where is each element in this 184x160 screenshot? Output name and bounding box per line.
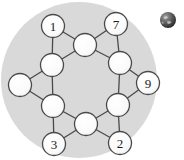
node-circle (107, 94, 130, 117)
node-label: 9 (145, 76, 152, 91)
graph-node-unlabeled[interactable] (74, 34, 97, 57)
node-label: 1 (50, 19, 57, 34)
graph-node-unlabeled[interactable] (75, 113, 98, 136)
graph-node-unlabeled[interactable] (42, 95, 65, 118)
node-circle (75, 113, 98, 136)
node-label: 7 (113, 17, 120, 32)
graph-node-1[interactable]: 1 (42, 15, 65, 38)
node-circle (9, 74, 32, 97)
node-circle (109, 52, 132, 75)
graph-node-unlabeled[interactable] (9, 74, 32, 97)
node-label: 3 (51, 137, 58, 152)
graph-node-unlabeled[interactable] (109, 52, 132, 75)
node-circle (74, 34, 97, 57)
graph-node-9[interactable]: 9 (137, 72, 160, 95)
globe-icon[interactable] (160, 12, 176, 28)
node-label: 2 (117, 136, 124, 151)
graph-figure-screenshot: 17932 (0, 0, 184, 160)
graph-node-7[interactable]: 7 (105, 13, 128, 36)
graph-node-unlabeled[interactable] (41, 54, 64, 77)
node-circle (41, 54, 64, 77)
graph-node-3[interactable]: 3 (43, 133, 66, 156)
node-circle (42, 95, 65, 118)
graph-node-unlabeled[interactable] (107, 94, 130, 117)
network-graph-canvas: 17932 (0, 0, 184, 160)
graph-node-2[interactable]: 2 (109, 132, 132, 155)
